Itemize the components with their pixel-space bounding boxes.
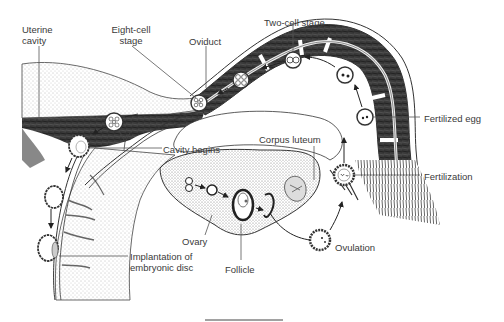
label-eight-cell-stage: Eight-cell stage xyxy=(106,24,156,46)
label-ovulation: Ovulation xyxy=(335,242,375,253)
label-line: embryonic disc xyxy=(130,262,193,273)
label-uterine-cavity: Uterine cavity xyxy=(22,24,53,46)
label-line: Uterine xyxy=(22,24,53,35)
label-line: stage xyxy=(106,35,156,46)
label-line: cavity xyxy=(22,35,53,46)
uterine-wall-lower xyxy=(54,148,175,300)
label-follicle: Follicle xyxy=(225,264,255,275)
label-two-cell-stage: Two-cell stage xyxy=(264,17,325,28)
implanting-blastocyst xyxy=(38,235,58,261)
label-implantation: Implantation of embryonic disc xyxy=(130,251,193,273)
label-cavity-begins: Cavity begins xyxy=(163,144,220,155)
fertilized-egg xyxy=(355,85,373,125)
label-fertilization: Fertilization xyxy=(424,171,473,182)
label-line: Implantation of xyxy=(130,251,193,262)
label-corpus-luteum: Corpus luteum xyxy=(259,134,321,145)
label-fertilized-egg: Fertilized egg xyxy=(424,113,481,124)
label-oviduct: Oviduct xyxy=(189,36,221,47)
label-ovary: Ovary xyxy=(182,236,207,247)
ovary xyxy=(160,111,342,235)
label-line: Eight-cell xyxy=(106,24,156,35)
early-division-egg xyxy=(305,57,353,83)
reproduction-diagram: Uterine cavity Eight-cell stage Oviduct … xyxy=(0,0,504,322)
blastocyst xyxy=(45,186,63,228)
